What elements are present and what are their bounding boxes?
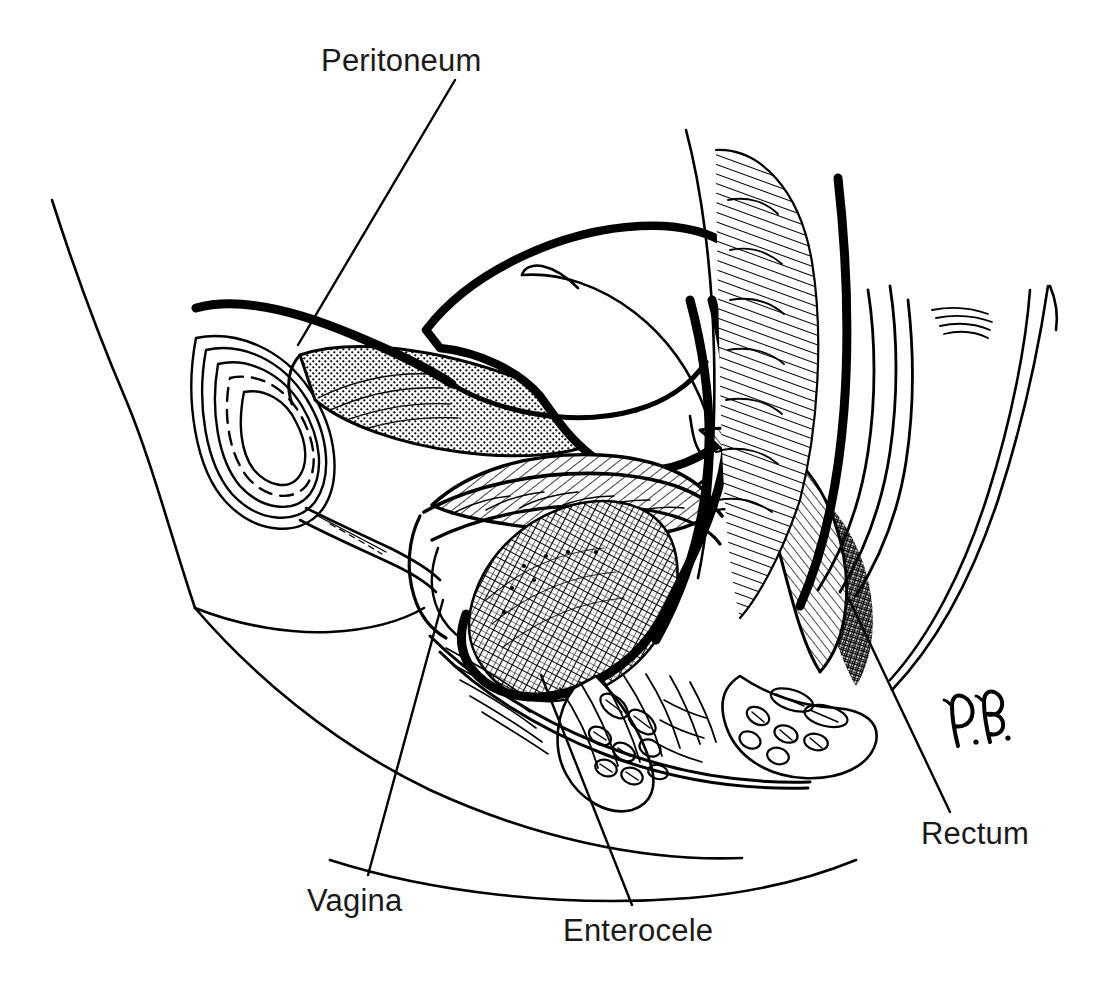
figure-root: Peritoneum Vagina Enterocele Rectum <box>0 0 1109 992</box>
label-enterocele: Enterocele <box>563 915 713 946</box>
label-rectum: Rectum <box>921 818 1029 849</box>
label-vagina: Vagina <box>307 885 402 916</box>
label-peritoneum: Peritoneum <box>321 45 482 76</box>
